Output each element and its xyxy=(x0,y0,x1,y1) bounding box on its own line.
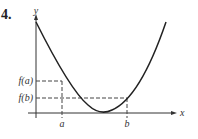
fa-label: f(a) xyxy=(19,75,34,87)
parabola-curve xyxy=(36,22,166,112)
function-graph: y x f(a) f(b) a b xyxy=(0,0,198,139)
b-label: b xyxy=(125,118,130,129)
x-axis-arrow-icon xyxy=(171,111,177,115)
x-axis-label: x xyxy=(179,107,185,118)
y-axis-label: y xyxy=(33,5,39,16)
a-label: a xyxy=(60,118,65,129)
fb-label: f(b) xyxy=(19,92,34,104)
